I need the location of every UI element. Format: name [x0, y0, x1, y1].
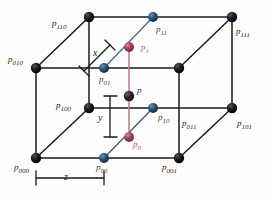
label-p00: p00	[96, 162, 108, 175]
label-p110: p110	[52, 18, 66, 31]
node-p10	[148, 103, 158, 113]
label-p11: p11	[156, 24, 167, 37]
node-p110	[84, 12, 94, 22]
node-p1	[124, 42, 134, 52]
label-p0: p0	[133, 139, 141, 152]
label-p01: p01	[99, 74, 111, 87]
cube-wireframe-svg	[0, 0, 272, 198]
label-dimension-z: z	[64, 171, 68, 182]
node-p100	[84, 103, 94, 113]
label-p1: p1	[141, 42, 149, 55]
label-p100: p100	[56, 100, 71, 113]
edge-p011-p111	[179, 17, 232, 68]
label-p: p	[137, 85, 142, 98]
label-p111: p111	[236, 26, 250, 39]
edge-p000-p100	[36, 108, 89, 158]
node-p	[124, 91, 134, 101]
label-p101: p101	[237, 118, 252, 131]
cube-edges	[36, 17, 232, 158]
node-p101	[227, 103, 237, 113]
label-dimension-x: x	[93, 47, 97, 58]
node-p000	[31, 153, 41, 163]
label-dimension-y: y	[98, 112, 102, 123]
edge-p001-p101	[179, 108, 232, 158]
label-p010: p010	[8, 54, 23, 67]
label-p10: p10	[158, 112, 170, 125]
node-p011	[174, 63, 184, 73]
node-p111	[227, 12, 237, 22]
label-p001: p001	[162, 162, 177, 175]
trilinear-cube-figure: p110 p111 p010 p100 p011 p101 p000 p001 …	[0, 0, 272, 198]
node-p11	[148, 12, 158, 22]
node-p01	[99, 63, 109, 73]
node-p010	[31, 63, 41, 73]
label-p011: p011	[182, 118, 196, 131]
label-p000: p000	[14, 162, 29, 175]
